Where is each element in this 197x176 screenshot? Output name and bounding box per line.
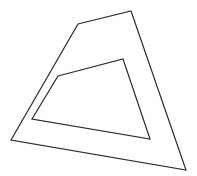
diagram-svg — [0, 0, 197, 176]
inner-quadrilateral — [32, 59, 150, 139]
outer-quadrilateral — [11, 11, 186, 170]
diagram-canvas — [0, 0, 197, 176]
